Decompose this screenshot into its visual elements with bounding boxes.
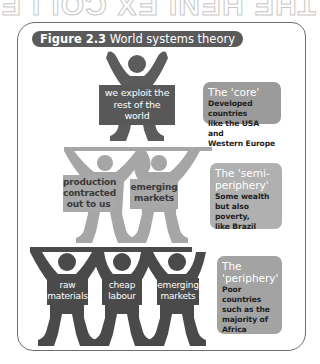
periphery-sign-emerging-markets: emerging markets xyxy=(157,278,199,305)
sign-line: world xyxy=(99,110,175,122)
sign-line: emerging xyxy=(130,182,178,193)
sign-line: raw xyxy=(47,280,88,291)
periphery-sign-raw-materials: raw materials xyxy=(47,278,88,305)
sign-line: markets xyxy=(130,193,178,204)
periphery-sign-cheap-labour: cheap labour xyxy=(102,278,142,305)
sign-line: rest of the xyxy=(99,99,175,111)
legend-core-description: Developed countries like the USA and Wes… xyxy=(208,99,276,149)
core-sign: we exploit the rest of the world xyxy=(99,85,175,125)
legend-semi-heading: The 'semi- periphery' xyxy=(215,167,277,191)
legend-core: The 'core' Developed countries like the … xyxy=(203,82,281,124)
legend-periphery: The 'periphery' Poor countries such as t… xyxy=(217,256,282,334)
sign-line: production xyxy=(63,177,114,188)
sign-line: we exploit the xyxy=(99,87,175,99)
periphery-platform xyxy=(30,247,192,252)
sign-line: contracted xyxy=(63,188,114,199)
semi-platform xyxy=(64,147,212,151)
legend-semi-description: Some wealth but also poverty, like Brazi… xyxy=(215,192,277,232)
legend-periphery-heading: The 'periphery' xyxy=(222,260,277,284)
legend-core-heading: The 'core' xyxy=(208,86,276,98)
semi-sign-production: production contracted out to us xyxy=(63,175,114,212)
sign-line: labour xyxy=(102,291,142,302)
sign-line: emerging xyxy=(157,280,199,291)
legend-periphery-description: Poor countries such as the majority of A… xyxy=(222,285,277,335)
semi-sign-emerging-markets: emerging markets xyxy=(130,179,178,209)
sign-line: markets xyxy=(157,291,199,302)
sign-line: out to us xyxy=(63,199,114,210)
sign-line: cheap xyxy=(102,280,142,291)
legend-semi-periphery: The 'semi- periphery' Some wealth but al… xyxy=(210,163,282,229)
sign-line: materials xyxy=(47,291,88,302)
